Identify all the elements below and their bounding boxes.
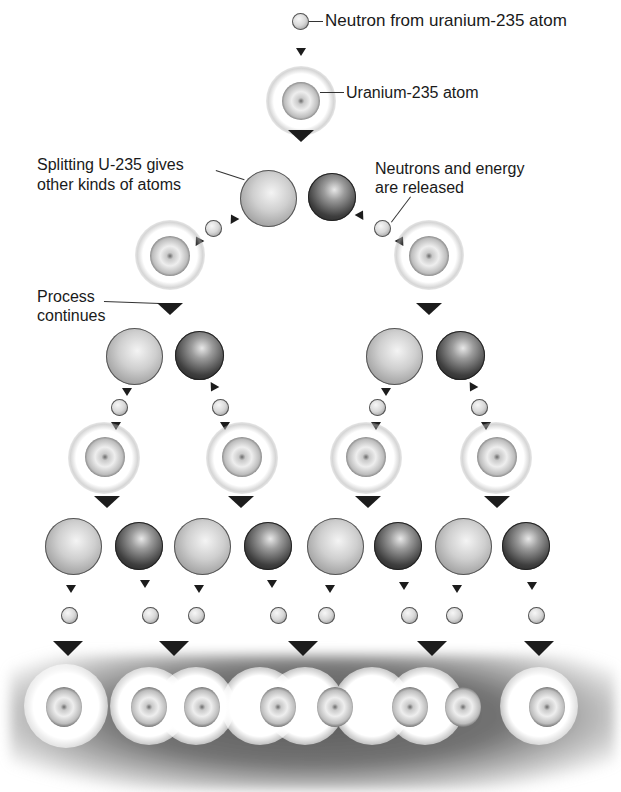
arrow-icon [140,580,150,588]
released-neutron [471,399,488,416]
fragment-atom-dark [374,522,422,570]
fragment-atom-light [174,518,231,575]
released-neutron [374,220,391,237]
released-neutron [61,607,78,624]
u235-atom [346,437,386,477]
arrow-icon [94,496,120,508]
arrow-icon [527,582,537,590]
arrow-icon [288,130,314,142]
u235-atom [46,687,82,727]
released-neutron [318,607,335,624]
arrow-icon [452,585,462,593]
u235-atom [282,82,320,120]
fragment-atom-light [106,328,163,385]
process-leader-line [104,301,160,304]
released-neutron [270,607,287,624]
u235-atom [222,437,262,477]
u235-atom [131,687,167,727]
arrow-icon [228,496,254,508]
neutron-label: Neutron from uranium-235 atom [325,11,567,30]
released-neutron [142,607,159,624]
arrow-icon [355,496,381,508]
arrow-icon [53,641,83,656]
splitting-label-2: other kinds of atoms [37,175,181,194]
process-label-2: continues [37,306,106,325]
arrow-icon [355,208,368,220]
released-neutron [528,607,545,624]
arrow-icon [381,388,391,396]
arrow-icon [524,641,554,656]
released-neutron [446,607,463,624]
fragment-atom-light [366,328,423,385]
fragment-atom-dark [436,331,485,380]
u235-atom [317,687,353,727]
fragment-atom-light [240,170,297,227]
arrow-icon [157,303,183,315]
arrow-icon [417,641,447,656]
u235-atom [260,687,296,727]
fragment-atom-dark [502,522,550,570]
arrow-icon [288,641,318,656]
released-neutron [205,220,222,237]
arrow-icon [399,582,409,590]
released-neutron [188,607,205,624]
initial-neutron [292,13,309,30]
chain-reaction-diagram: Neutron from uranium-235 atom Uranium-23… [0,0,621,792]
uranium-leader-line [320,92,344,93]
fragment-atom-dark [115,522,163,570]
process-label-1: Process [37,287,95,306]
arrow-icon [159,641,189,656]
fragment-atom-dark [175,331,224,380]
arrow-icon [122,388,132,396]
arrow-icon [325,585,335,593]
released-label-2: are released [375,178,464,197]
released-neutron [111,399,128,416]
arrow-icon [466,382,479,394]
released-neutron [401,607,418,624]
u235-atom [184,687,220,727]
u235-atom [477,437,517,477]
u235-atom [85,437,125,477]
released-leader-line [391,196,411,222]
fragment-atom-light [307,518,364,575]
arrow-icon [227,212,240,224]
uranium-label: Uranium-235 atom [346,83,479,102]
u235-atom [529,687,565,727]
released-neutron [212,399,229,416]
splitting-leader-line [216,170,245,180]
arrow-icon [267,580,277,588]
released-neutron [369,399,386,416]
u235-atom [445,687,481,727]
arrow-icon [296,48,306,56]
fragment-atom-light [45,518,102,575]
arrow-icon [194,585,204,593]
arrow-icon [207,382,220,394]
splitting-label-1: Splitting U-235 gives [37,155,184,174]
fragment-atom-dark [244,522,292,570]
arrow-icon [66,585,76,593]
u235-atom [409,236,449,276]
fragment-atom-dark [308,173,356,221]
neutron-leader-line [309,21,323,22]
u235-atom [392,687,428,727]
fragment-atom-light [435,518,492,575]
arrow-icon [484,496,510,508]
released-label-1: Neutrons and energy [375,159,524,178]
u235-atom [150,236,190,276]
arrow-icon [416,303,442,315]
